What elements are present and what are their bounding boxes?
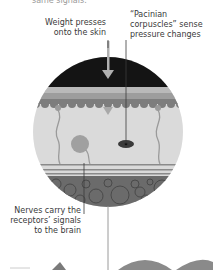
- layer-line: [30, 164, 190, 166]
- skin-cross-section-diagram: [0, 0, 213, 270]
- bottom-shape-1: [118, 260, 172, 270]
- skin-layers: [30, 55, 190, 216]
- bottom-shape-left: [52, 262, 66, 270]
- fat-layer: [30, 176, 190, 216]
- bottom-shape-2: [176, 260, 213, 270]
- epidermis-top: [30, 87, 190, 93]
- epidermis-scallops: [32, 100, 184, 108]
- epidermis-mid: [30, 93, 190, 99]
- layer-line: [30, 173, 190, 175]
- layer-line: [30, 169, 190, 171]
